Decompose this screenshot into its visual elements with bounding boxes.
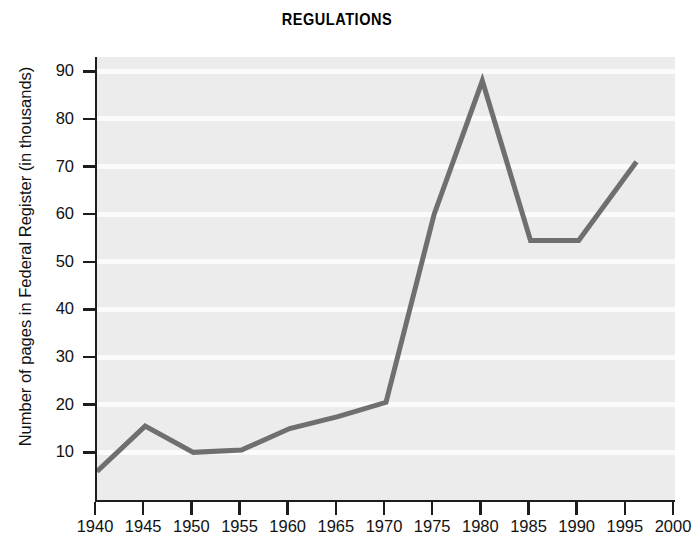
- y-tick-label-40: 40: [28, 300, 74, 317]
- y-tick-label-90: 90: [28, 62, 74, 79]
- y-tick-40: [83, 308, 95, 311]
- plot-area: [95, 57, 675, 502]
- y-tick-20: [83, 403, 95, 406]
- y-tick-label-60: 60: [28, 205, 74, 222]
- x-tick-1950: [190, 502, 193, 515]
- x-tick-label-2000: 2000: [643, 518, 696, 535]
- x-tick-1960: [286, 502, 289, 515]
- y-tick-70: [83, 165, 95, 168]
- y-tick-label-10: 10: [28, 443, 74, 460]
- y-tick-label-50: 50: [28, 253, 74, 270]
- x-tick-1940: [94, 502, 97, 515]
- data-series-line-regulations: [97, 57, 675, 500]
- x-tick-1970: [383, 502, 386, 515]
- x-tick-2000: [672, 502, 675, 515]
- y-tick-90: [83, 70, 95, 73]
- y-tick-10: [83, 451, 95, 454]
- x-tick-1980: [479, 502, 482, 515]
- y-tick-label-30: 30: [28, 348, 74, 365]
- y-tick-60: [83, 213, 95, 216]
- x-tick-1985: [527, 502, 530, 515]
- y-tick-30: [83, 356, 95, 359]
- y-tick-50: [83, 261, 95, 264]
- x-tick-1945: [142, 502, 145, 515]
- y-tick-label-70: 70: [28, 158, 74, 175]
- x-tick-1975: [431, 502, 434, 515]
- y-tick-80: [83, 118, 95, 121]
- y-tick-label-20: 20: [28, 396, 74, 413]
- x-tick-1995: [624, 502, 627, 515]
- x-tick-1955: [238, 502, 241, 515]
- y-tick-label-80: 80: [28, 110, 74, 127]
- chart-title: REGULATIONS: [40, 10, 633, 29]
- x-tick-1965: [335, 502, 338, 515]
- x-tick-1990: [575, 502, 578, 515]
